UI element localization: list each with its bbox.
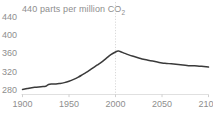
x-tick-label: 1950 bbox=[59, 99, 79, 109]
x-tick-label: 2000 bbox=[105, 99, 125, 109]
y-tick-label: 400 bbox=[2, 30, 17, 40]
y-tick-label: 440 bbox=[2, 12, 17, 22]
y-tick-label: 360 bbox=[2, 48, 17, 58]
x-tick-label: 2050 bbox=[152, 99, 172, 109]
y-tick-label: 320 bbox=[2, 67, 17, 77]
co2-chart: 440 parts per million CO2 28032036040044… bbox=[0, 0, 213, 117]
y-tick-label: 280 bbox=[2, 85, 17, 95]
x-tick-label: 2100 bbox=[198, 99, 213, 109]
x-tick-label: 1900 bbox=[12, 99, 32, 109]
